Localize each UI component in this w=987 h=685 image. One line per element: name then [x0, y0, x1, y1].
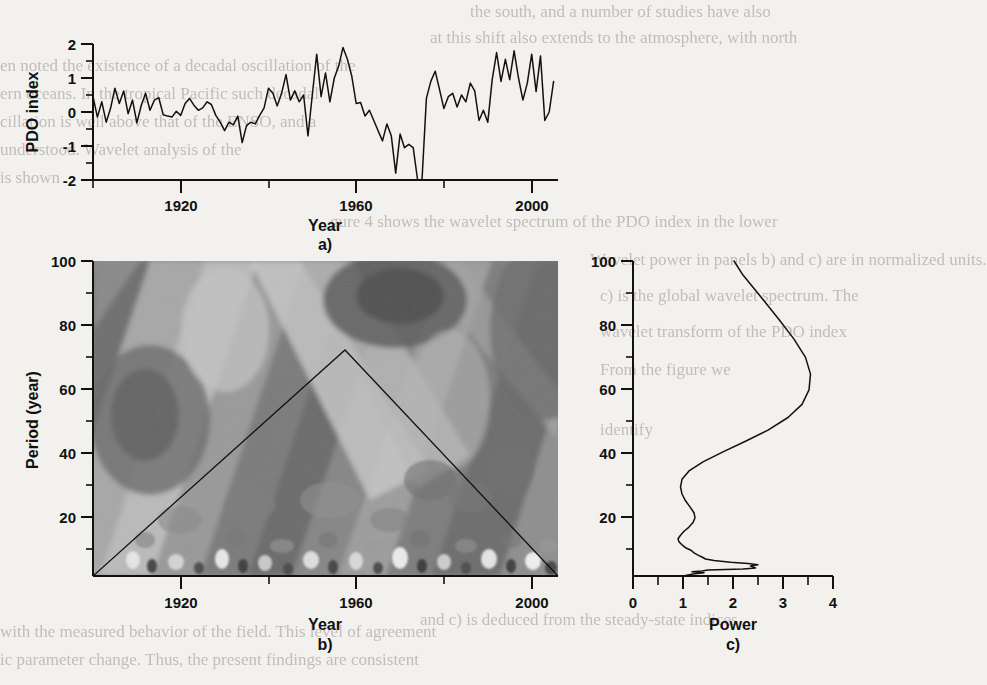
panel-a-label: a) — [318, 236, 332, 253]
y-tick-label: -1 — [63, 138, 76, 155]
y-tick-label: 60 — [599, 381, 616, 398]
x-tick-label: 0 — [629, 594, 637, 611]
x-tick-label: 2 — [729, 594, 737, 611]
x-tick-label: 4 — [829, 594, 838, 611]
x-tick-label: 1960 — [339, 197, 372, 214]
panel-a-y-ticklabels: 2 1 0 -1 -2 — [63, 36, 76, 189]
x-tick-label: 2000 — [515, 594, 548, 611]
panel-c-y-ticklabels: 100 80 60 40 20 — [591, 253, 616, 526]
pdo-index-series — [93, 47, 554, 180]
y-tick-label: 2 — [68, 36, 76, 53]
x-tick-label: 1 — [679, 594, 687, 611]
y-tick-label: 60 — [59, 381, 76, 398]
panel-c-y-ticks — [621, 261, 633, 549]
y-tick-label: 20 — [59, 509, 76, 526]
panel-b-x-ticklabels: 1920 1960 2000 — [164, 594, 548, 611]
y-tick-label: 20 — [599, 509, 616, 526]
x-tick-label: 1920 — [164, 197, 197, 214]
panel-c-label: c) — [726, 636, 740, 653]
panel-a: 2 1 0 -1 -2 1920 1960 2000 PDO index Yea… — [24, 36, 558, 253]
y-tick-label: 1 — [68, 70, 76, 87]
panel-a-x-ticks — [93, 180, 532, 193]
y-tick-label: 40 — [59, 445, 76, 462]
y-tick-label: 80 — [59, 317, 76, 334]
y-tick-label: 100 — [591, 253, 616, 270]
panel-b-x-axis-label: Year — [308, 616, 342, 633]
global-wavelet-spectrum-series — [678, 261, 811, 575]
x-tick-label: 2000 — [515, 197, 548, 214]
panel-b-y-ticks — [81, 261, 93, 549]
panel-b-contour-image — [0, 240, 600, 576]
panel-a-x-ticklabels: 1920 1960 2000 — [164, 197, 548, 214]
y-tick-label: 100 — [51, 253, 76, 270]
panel-b-y-ticklabels: 100 80 60 40 20 — [51, 253, 76, 526]
x-tick-label: 1920 — [164, 594, 197, 611]
panel-a-y-axis-label: PDO index — [24, 71, 41, 152]
y-tick-label: 0 — [68, 104, 76, 121]
panel-c-x-axis-label: Power — [709, 616, 757, 633]
panel-b-x-ticks — [181, 576, 532, 589]
y-tick-label: 80 — [599, 317, 616, 334]
panel-c: 100 80 60 40 20 0 1 2 3 4 Power c) — [591, 253, 838, 653]
panel-b: 100 80 60 40 20 1920 1960 2000 Period (y… — [0, 240, 600, 653]
panel-b-y-axis-label: Period (year) — [24, 371, 41, 469]
panel-a-y-ticks — [81, 44, 93, 180]
y-tick-label: 40 — [599, 445, 616, 462]
x-tick-label: 1960 — [339, 594, 372, 611]
y-tick-label: -2 — [63, 172, 76, 189]
panel-c-x-ticklabels: 0 1 2 3 4 — [629, 594, 838, 611]
x-tick-label: 3 — [779, 594, 787, 611]
panel-c-x-ticks — [633, 576, 833, 589]
panel-a-x-axis-label: Year — [308, 217, 342, 234]
panel-b-label: b) — [317, 636, 332, 653]
